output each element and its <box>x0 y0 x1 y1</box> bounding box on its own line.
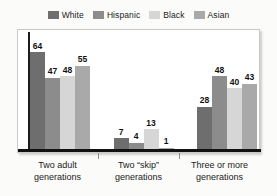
bar-value-label: 55 <box>78 55 87 64</box>
legend-item-white[interactable]: White <box>48 11 84 20</box>
legend-item-hispanic[interactable]: Hispanic <box>93 11 140 20</box>
legend-label: Hispanic <box>107 11 140 20</box>
legend-swatch-icon <box>93 11 104 19</box>
bar-rect <box>242 84 257 149</box>
bar-asian-2[interactable]: 1 <box>159 30 174 149</box>
bar-value-label: 4 <box>134 132 139 141</box>
bar-white-3[interactable]: 28 <box>197 30 212 149</box>
bar-value-label: 28 <box>200 96 209 105</box>
category-label-2: Two “skip”generations <box>98 160 179 183</box>
legend-swatch-icon <box>194 11 205 19</box>
bar-rect <box>60 76 75 149</box>
category-label-line1: Three or more <box>179 160 260 172</box>
category-label-line2: generations <box>17 172 98 184</box>
bar-black-3[interactable]: 40 <box>227 30 242 149</box>
legend-item-asian[interactable]: Asian <box>194 11 230 20</box>
bar-hispanic-1[interactable]: 47 <box>45 30 60 149</box>
bar-hispanic-3[interactable]: 48 <box>212 30 227 149</box>
category-label-1: Two adultgenerations <box>17 160 98 183</box>
legend-label: Black <box>163 11 184 20</box>
bar-rect <box>144 129 159 149</box>
category-label-3: Three or moregenerations <box>179 160 260 183</box>
bar-rect <box>75 66 90 149</box>
category-label-line1: Two “skip” <box>98 160 179 172</box>
bar-groups: 644748557413128484043 <box>30 30 257 149</box>
bar-value-label: 40 <box>230 78 239 87</box>
bar-rect <box>197 107 212 149</box>
legend-label: Asian <box>208 11 230 20</box>
plot-area: 644748557413128484043 <box>17 29 260 153</box>
bar-value-label: 64 <box>33 42 42 51</box>
bar-value-label: 7 <box>119 128 124 137</box>
bar-black-2[interactable]: 13 <box>144 30 159 149</box>
legend-swatch-icon <box>149 11 160 19</box>
bar-rect <box>45 78 60 149</box>
bar-asian-1[interactable]: 55 <box>75 30 90 149</box>
bar-group-2: 74131 <box>114 30 174 149</box>
bar-value-label: 47 <box>48 67 57 76</box>
category-label-line2: generations <box>98 172 179 184</box>
bar-chart-figure: WhiteHispanicBlackAsian 6447485574131284… <box>0 0 277 196</box>
bar-group-3: 28484043 <box>197 30 257 149</box>
bar-asian-3[interactable]: 43 <box>242 30 257 149</box>
axis-tick-2 <box>179 153 180 159</box>
bar-value-label: 1 <box>164 137 169 146</box>
bar-black-1[interactable]: 48 <box>60 30 75 149</box>
category-label-line2: generations <box>179 172 260 184</box>
bar-white-2[interactable]: 7 <box>114 30 129 149</box>
bar-value-label: 48 <box>215 66 224 75</box>
legend-swatch-icon <box>48 11 59 19</box>
category-label-line1: Two adult <box>17 160 98 172</box>
bar-white-1[interactable]: 64 <box>30 30 45 149</box>
bar-rect <box>114 138 129 149</box>
x-axis-baseline <box>18 149 261 152</box>
bar-rect <box>227 88 242 149</box>
bar-value-label: 43 <box>245 73 254 82</box>
category-labels: Two adultgenerationsTwo “skip”generation… <box>17 160 260 183</box>
bar-value-label: 48 <box>63 66 72 75</box>
bar-hispanic-2[interactable]: 4 <box>129 30 144 149</box>
chart-legend: WhiteHispanicBlackAsian <box>0 11 277 20</box>
legend-label: White <box>62 11 84 20</box>
bar-rect <box>212 76 227 149</box>
bar-group-1: 64474855 <box>30 30 90 149</box>
legend-item-black[interactable]: Black <box>149 11 184 20</box>
bar-value-label: 13 <box>146 119 155 128</box>
axis-tick-1 <box>98 153 99 159</box>
bar-rect <box>30 52 45 149</box>
